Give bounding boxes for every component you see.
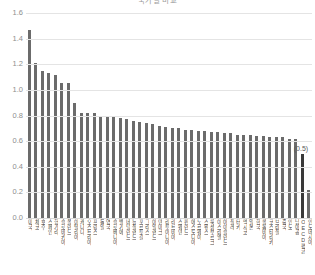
- bar: [249, 135, 252, 218]
- x-axis-tick-label: 인도네시아: [305, 219, 312, 273]
- plot-area: (0.5): [26, 13, 312, 218]
- bar: [41, 71, 44, 218]
- bar-chart: 국가별 비교 1.61.41.21.00.80.60.40.20.0 (0.5)…: [0, 0, 315, 275]
- bar: [197, 131, 200, 218]
- bar: [119, 118, 122, 218]
- bar: [73, 103, 76, 218]
- bar: [275, 137, 278, 218]
- bar: [86, 113, 89, 218]
- y-axis-tick-label: 1.0: [13, 86, 23, 94]
- bar: [229, 133, 232, 218]
- chart-title: 국가별 비교: [0, 0, 315, 5]
- bar: [255, 136, 258, 218]
- y-axis-tick-label: 0.0: [13, 214, 23, 222]
- bar-highlighted: [301, 154, 304, 218]
- bar: [47, 73, 50, 218]
- bar: [203, 131, 206, 218]
- bar: [190, 130, 193, 218]
- y-axis-tick-label: 1.6: [13, 9, 23, 17]
- bar: [262, 136, 265, 218]
- bar: [158, 126, 161, 218]
- bar: [288, 139, 291, 218]
- y-axis-tick-label: 1.2: [13, 60, 23, 68]
- bar: [184, 130, 187, 218]
- bar: [216, 132, 219, 218]
- bar: [145, 123, 148, 218]
- y-axis-tick-label: 1.4: [13, 35, 23, 43]
- gridline: [26, 116, 312, 117]
- bar: [151, 124, 154, 218]
- bar: [242, 135, 245, 218]
- bar: [223, 133, 226, 218]
- bar: [268, 137, 271, 218]
- bar: [125, 119, 128, 218]
- bar: [138, 122, 141, 218]
- gridline: [26, 141, 312, 142]
- bar: [28, 30, 31, 218]
- gridline: [26, 39, 312, 40]
- gridline: [26, 192, 312, 193]
- bar: [80, 113, 83, 218]
- y-axis: 1.61.41.21.00.80.60.40.20.0: [0, 0, 26, 232]
- y-axis-tick-label: 0.6: [13, 137, 23, 145]
- bar: [93, 113, 96, 218]
- bar: [132, 121, 135, 218]
- x-axis-labels: 미국체코호주스페인헝가리슬로바키아폴란드이탈리아캐나다오스트리아프랑스독일영국슬…: [26, 219, 312, 275]
- bar: [67, 83, 70, 218]
- bar-value-label: (0.5): [294, 145, 308, 153]
- gridline: [26, 90, 312, 91]
- gridline: [26, 167, 312, 168]
- bar: [281, 137, 284, 218]
- y-axis-tick-label: 0.2: [13, 188, 23, 196]
- bar: [236, 135, 239, 218]
- bar: [210, 132, 213, 218]
- gridline: [26, 13, 312, 14]
- y-axis-tick-label: 0.8: [13, 112, 23, 120]
- bar: [60, 83, 63, 218]
- bar: [54, 75, 57, 219]
- y-axis-tick-label: 0.4: [13, 163, 23, 171]
- bar: [307, 190, 310, 218]
- gridline: [26, 64, 312, 65]
